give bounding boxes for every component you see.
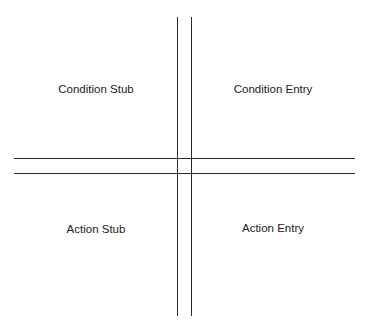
vertical-divider-left — [177, 17, 178, 316]
horizontal-divider-bottom — [14, 173, 355, 174]
condition-stub-label: Condition Stub — [58, 83, 133, 95]
condition-entry-label: Condition Entry — [234, 83, 313, 95]
horizontal-divider-top — [14, 158, 355, 159]
action-entry-label: Action Entry — [242, 222, 304, 234]
vertical-divider-right — [191, 17, 192, 316]
action-stub-label: Action Stub — [67, 223, 126, 235]
